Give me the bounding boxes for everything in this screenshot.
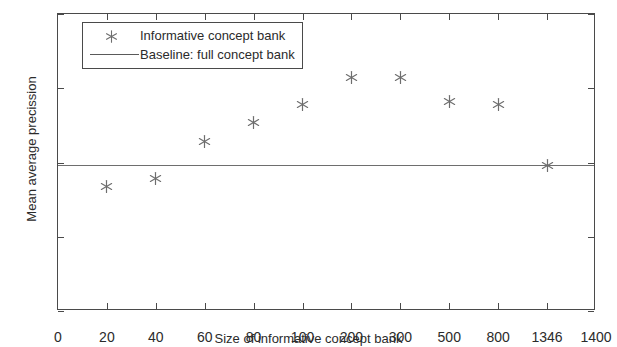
x-tick-mark-top xyxy=(498,14,499,20)
x-tick-label: 60 xyxy=(197,330,213,344)
x-tick-label: 200 xyxy=(340,330,363,344)
x-tick-label: 500 xyxy=(438,330,461,344)
x-tick-label: 300 xyxy=(389,330,412,344)
legend-item-informative: Informative concept bank xyxy=(88,26,295,45)
x-tick-mark-top xyxy=(400,14,401,20)
data-point-marker xyxy=(198,135,211,148)
y-tick-mark-right xyxy=(588,14,594,15)
data-point-marker xyxy=(247,116,260,129)
legend-label-informative: Informative concept bank xyxy=(140,28,285,43)
data-point-marker xyxy=(100,180,113,193)
legend-label-baseline: Baseline: full concept bank xyxy=(140,47,295,62)
x-tick-mark-top xyxy=(547,14,548,20)
line-swatch-icon xyxy=(88,47,140,62)
x-tick-mark xyxy=(449,303,450,309)
x-tick-label: 1400 xyxy=(580,330,611,344)
x-tick-mark-top xyxy=(303,14,304,20)
x-tick-mark-top xyxy=(107,14,108,20)
x-tick-mark-top xyxy=(156,14,157,20)
x-tick-mark xyxy=(205,303,206,309)
x-tick-mark-top xyxy=(205,14,206,20)
y-tick-mark-right xyxy=(588,311,594,312)
x-tick-mark xyxy=(498,303,499,309)
data-point-marker xyxy=(345,71,358,84)
x-tick-mark xyxy=(156,303,157,309)
y-tick-mark-right xyxy=(588,163,594,164)
x-tick-mark xyxy=(303,303,304,309)
x-tick-mark xyxy=(547,303,548,309)
x-tick-mark xyxy=(400,303,401,309)
x-tick-label: 800 xyxy=(486,330,509,344)
y-tick-mark-right xyxy=(588,88,594,89)
x-tick-label: 20 xyxy=(99,330,115,344)
y-tick-mark xyxy=(58,14,64,15)
x-tick-mark-top xyxy=(449,14,450,20)
x-tick-mark-top xyxy=(351,14,352,20)
x-tick-label: 0 xyxy=(54,330,62,344)
x-tick-mark xyxy=(351,303,352,309)
x-tick-label: 1346 xyxy=(532,330,563,344)
y-tick-mark xyxy=(58,163,64,164)
data-point-marker xyxy=(443,95,456,108)
legend-item-baseline: Baseline: full concept bank xyxy=(88,45,295,64)
x-tick-mark xyxy=(254,303,255,309)
y-tick-mark xyxy=(58,237,64,238)
y-axis-title: Mean average precission xyxy=(25,0,39,299)
chart-figure: Mean average precission Size of informat… xyxy=(0,0,617,347)
data-point-marker xyxy=(492,98,505,111)
data-point-marker xyxy=(394,71,407,84)
y-tick-mark xyxy=(58,311,64,312)
asterisk-marker-icon xyxy=(88,28,140,43)
x-tick-label: 100 xyxy=(291,330,314,344)
data-point-marker xyxy=(149,172,162,185)
x-tick-label: 40 xyxy=(148,330,164,344)
baseline-series-line xyxy=(58,165,594,166)
x-tick-mark xyxy=(107,303,108,309)
y-tick-mark-right xyxy=(588,237,594,238)
plot-area: 00.050.10.150.2 020406080100200300500800… xyxy=(57,13,595,310)
x-tick-label: 80 xyxy=(246,330,262,344)
legend: Informative concept bank Baseline: full … xyxy=(82,22,303,69)
x-tick-mark-top xyxy=(254,14,255,20)
y-tick-mark xyxy=(58,88,64,89)
data-point-marker xyxy=(296,98,309,111)
